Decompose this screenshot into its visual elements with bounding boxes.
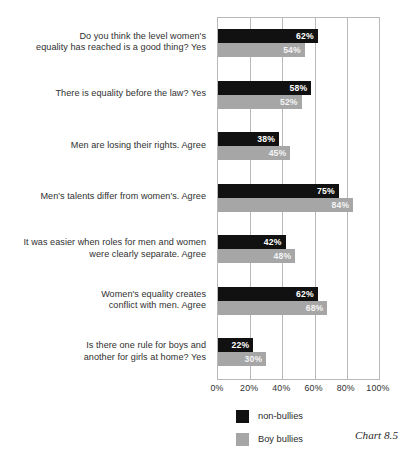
bar-group: 62%54% [218, 18, 379, 70]
bar-non-bullies: 75% [218, 184, 339, 198]
category-label: Do you think the level women'sequality h… [0, 31, 206, 54]
bar-value-label: 58% [290, 83, 312, 93]
bar-non-bullies: 58% [218, 81, 311, 95]
bar-boy-bullies: 84% [218, 198, 353, 212]
chart-figure: Do you think the level women'sequality h… [0, 0, 412, 466]
bar-group: 75%84% [218, 173, 379, 225]
chart-caption: Chart 8.5 [355, 429, 398, 441]
bar-value-label: 62% [296, 31, 318, 41]
bar-value-label: 68% [306, 303, 328, 313]
category-label: Women's equality createsconflict with me… [0, 289, 206, 312]
bar-boy-bullies: 52% [218, 95, 302, 109]
x-tick-60: 60% [304, 383, 322, 393]
bar-non-bullies: 62% [218, 29, 318, 43]
bar-value-label: 54% [283, 45, 305, 55]
x-tick-40: 40% [272, 383, 290, 393]
bar-value-label: 38% [257, 134, 279, 144]
x-tick-20: 20% [240, 383, 258, 393]
bar-non-bullies: 42% [218, 235, 286, 249]
bar-boy-bullies: 48% [218, 249, 295, 263]
bar-boy-bullies: 45% [218, 146, 290, 160]
x-tick-0: 0% [210, 383, 223, 393]
legend-label: Boy bullies [258, 434, 303, 444]
bar-value-label: 48% [273, 251, 295, 261]
category-label: It was easier when roles for men and wom… [0, 237, 206, 260]
bar-value-label: 62% [296, 289, 318, 299]
bar-value-label: 22% [232, 340, 254, 350]
category-label-line: conflict with men. Agree [0, 300, 206, 312]
legend-item[interactable]: non-bullies [236, 406, 386, 426]
category-label-line: Men are losing their rights. Agree [0, 140, 206, 152]
bar-boy-bullies: 54% [218, 43, 305, 57]
bar-group: 38%45% [218, 121, 379, 173]
category-label-line: were clearly separate. Agree [0, 249, 206, 261]
bar-value-label: 42% [264, 237, 286, 247]
category-label-line: equality has reached is a good thing? Ye… [0, 42, 206, 54]
bar-boy-bullies: 30% [218, 352, 266, 366]
bar-non-bullies: 22% [218, 338, 253, 352]
bar-non-bullies: 38% [218, 132, 279, 146]
bar-value-label: 45% [269, 148, 291, 158]
bar-value-label: 84% [331, 200, 353, 210]
x-tick-100: 100% [366, 383, 389, 393]
legend-label: non-bullies [258, 411, 303, 421]
category-label: Men's talents differ from women's. Agree [0, 191, 206, 203]
category-label-line: It was easier when roles for men and wom… [0, 237, 206, 249]
category-label-line: another for girls at home? Yes [0, 352, 206, 364]
bar-group: 42%48% [218, 224, 379, 276]
bar-group: 62%68% [218, 276, 379, 328]
category-label-line: There is equality before the law? Yes [0, 88, 206, 100]
bar-non-bullies: 62% [218, 287, 318, 301]
category-label-line: Men's talents differ from women's. Agree [0, 191, 206, 203]
legend-swatch-icon [236, 410, 249, 423]
category-label-column: Do you think the level women'sequality h… [0, 17, 212, 378]
bar-value-label: 52% [280, 97, 302, 107]
bar-boy-bullies: 68% [218, 301, 327, 315]
x-axis-tick-labels: 0%20%40%60%80%100% [217, 383, 378, 397]
legend-swatch-icon [236, 433, 249, 446]
category-label: There is equality before the law? Yes [0, 88, 206, 100]
bar-group: 58%52% [218, 70, 379, 122]
category-label: Men are losing their rights. Agree [0, 140, 206, 152]
bar-value-label: 30% [244, 354, 266, 364]
x-tick-80: 80% [337, 383, 355, 393]
category-label-line: Do you think the level women's [0, 31, 206, 43]
bar-group: 22%30% [218, 327, 379, 379]
bar-value-label: 75% [317, 186, 339, 196]
category-label-line: Women's equality creates [0, 289, 206, 301]
category-label-line: Is there one rule for boys and [0, 340, 206, 352]
plot-area: 62%54%58%52%38%45%75%84%42%48%62%68%22%3… [217, 17, 380, 380]
category-label: Is there one rule for boys andanother fo… [0, 340, 206, 363]
